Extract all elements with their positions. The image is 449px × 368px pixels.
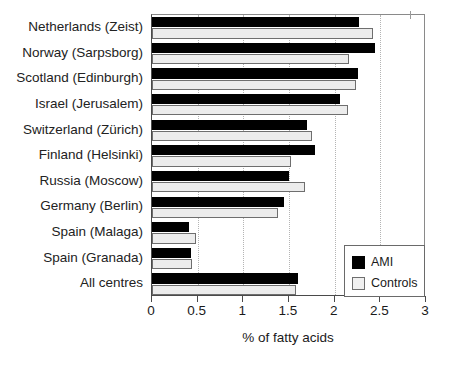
bar-controls xyxy=(152,259,192,269)
x-tick xyxy=(242,296,243,302)
bar-controls xyxy=(152,105,348,115)
category-label: Norway (Sarpsborg) xyxy=(22,40,143,66)
x-tick xyxy=(288,296,289,302)
x-tick xyxy=(151,296,152,302)
bar-ami xyxy=(152,68,358,78)
bar-group xyxy=(152,41,424,67)
x-tick xyxy=(334,296,335,302)
bar-group xyxy=(152,15,424,41)
bar-controls xyxy=(152,233,196,243)
legend-label: AMI xyxy=(371,255,393,269)
x-tick-label: 2.5 xyxy=(370,303,389,318)
legend-swatch-controls xyxy=(352,277,365,290)
x-tick-label: 0 xyxy=(147,303,155,318)
category-label: Spain (Granada) xyxy=(43,245,143,271)
category-label: Germany (Berlin) xyxy=(40,193,143,219)
category-label: Finland (Helsinki) xyxy=(39,142,143,168)
bar-group xyxy=(152,143,424,169)
bar-ami xyxy=(152,197,284,207)
bar-ami xyxy=(152,120,307,130)
category-label: Russia (Moscow) xyxy=(39,168,143,194)
bar-controls xyxy=(152,208,278,218)
x-tick-label: 1.5 xyxy=(279,303,298,318)
bar-controls xyxy=(152,285,296,295)
x-tick-label: 0.5 xyxy=(187,303,206,318)
x-tick xyxy=(425,296,426,302)
bar-controls xyxy=(152,182,305,192)
category-label: Spain (Malaga) xyxy=(51,219,143,245)
chart-legend: AMIControls xyxy=(344,245,425,297)
x-tick-label: 2 xyxy=(330,303,338,318)
bar-group xyxy=(152,92,424,118)
bar-controls xyxy=(152,80,356,90)
bar-ami xyxy=(152,145,315,155)
bar-group xyxy=(152,118,424,144)
legend-item: AMI xyxy=(352,253,393,271)
bar-group xyxy=(152,194,424,220)
bar-controls xyxy=(152,131,312,141)
legend-swatch-ami xyxy=(352,256,365,269)
bar-ami xyxy=(152,171,289,181)
bar-group xyxy=(152,169,424,195)
category-label: Israel (Jerusalem) xyxy=(35,91,143,117)
category-label: Switzerland (Zürich) xyxy=(23,117,143,143)
bar-chart: Netherlands (Zeist)Norway (Sarpsborg)Sco… xyxy=(0,0,449,368)
legend-item: Controls xyxy=(352,274,418,292)
x-tick-label: 1 xyxy=(239,303,247,318)
category-label: All centres xyxy=(80,270,143,296)
x-tick xyxy=(197,296,198,302)
x-axis-title: % of fatty acids xyxy=(151,330,425,345)
category-label: Netherlands (Zeist) xyxy=(28,14,143,40)
bar-controls xyxy=(152,156,291,166)
bar-ami xyxy=(152,248,191,258)
bar-ami xyxy=(152,94,340,104)
bar-group xyxy=(152,66,424,92)
category-axis-labels: Netherlands (Zeist)Norway (Sarpsborg)Sco… xyxy=(0,14,147,296)
bar-ami xyxy=(152,43,375,53)
legend-label: Controls xyxy=(371,276,418,290)
category-label: Scotland (Edinburgh) xyxy=(16,65,143,91)
bar-group xyxy=(152,220,424,246)
bar-ami xyxy=(152,17,359,27)
bar-ami xyxy=(152,222,189,232)
x-tick-label: 3 xyxy=(421,303,429,318)
bar-controls xyxy=(152,28,373,38)
bar-ami xyxy=(152,273,298,283)
bar-controls xyxy=(152,54,349,64)
